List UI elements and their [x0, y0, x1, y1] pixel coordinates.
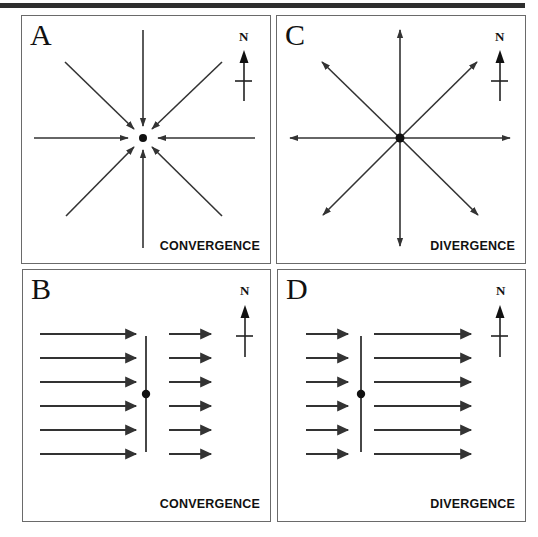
- reference-point-dot: [357, 390, 365, 398]
- center-point-dot: [396, 134, 405, 143]
- divergence-parallel-arrows: [306, 334, 471, 454]
- center-point-dot: [139, 134, 147, 142]
- convergence-parallel-arrows: [40, 334, 211, 454]
- reference-point-dot: [142, 390, 150, 398]
- arrow-diagram-layer: [0, 0, 538, 537]
